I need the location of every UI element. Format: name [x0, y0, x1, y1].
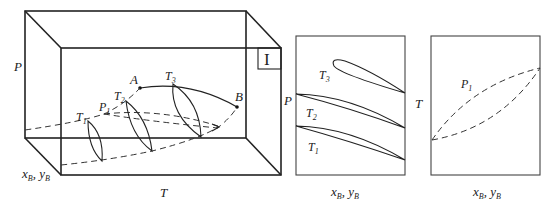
- label-px-t3: T3: [319, 68, 330, 84]
- panel-p-x: T3 T2 T1 P xB, yB: [283, 36, 405, 201]
- axis-label-px-y: P: [283, 93, 292, 108]
- panel-t-x: P1 T xB, yB: [415, 36, 540, 201]
- isobar-p1-upper-tx: [432, 68, 540, 140]
- box-edge-bottom-right: [246, 138, 281, 175]
- label-p1: P1: [98, 100, 110, 116]
- label-px-t1: T1: [308, 140, 319, 156]
- label-point-a: A: [129, 72, 138, 87]
- axis-label-tx-x: xB, yB: [472, 184, 501, 201]
- label-t3: T3: [165, 69, 176, 85]
- panel-3d-ptx: I A B T1 T2 T3 P1 P T xB, yB: [13, 11, 281, 200]
- critical-locus-curve: [140, 86, 237, 107]
- phase-diagram-figure: I A B T1 T2 T3 P1 P T xB, yB: [0, 0, 557, 206]
- isotherm-t2-lens: [126, 101, 152, 151]
- label-px-t2: T2: [306, 106, 317, 122]
- isotherm-t3-lens: [173, 84, 201, 137]
- isotherm-t1-lens: [88, 121, 102, 161]
- box-edge-top-right: [246, 11, 281, 48]
- box-edge-top-left: [25, 11, 61, 48]
- region-label: I: [264, 50, 270, 69]
- label-t1: T1: [76, 110, 87, 126]
- axis-label-tx-y: T: [415, 96, 423, 111]
- axis-label-p: P: [13, 59, 22, 74]
- panel-tx-frame: [431, 36, 540, 175]
- box-front-face: [61, 48, 281, 175]
- label-t2: T2: [114, 89, 125, 105]
- isobar-p1-lower-tx: [432, 68, 540, 140]
- isobar-p1-upper: [104, 113, 218, 127]
- label-point-b: B: [235, 89, 243, 104]
- axis-label-px-x: xB, yB: [330, 184, 359, 201]
- isotherm-t3-loop: [333, 60, 405, 93]
- axis-label-t: T: [160, 185, 168, 200]
- isobar-p1-lower: [104, 114, 218, 128]
- label-tx-p1: P1: [460, 77, 472, 93]
- axis-label-xy: xB, yB: [21, 166, 50, 183]
